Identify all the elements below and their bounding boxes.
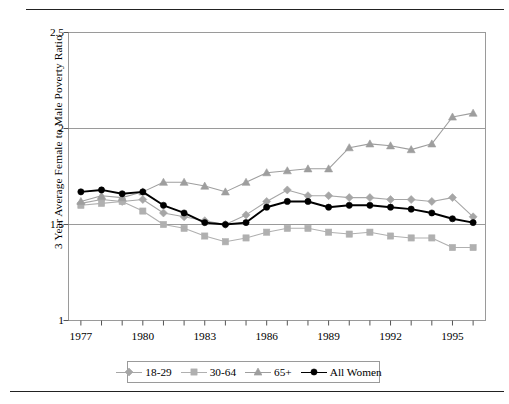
legend-item-18-29[interactable]: 18-29: [116, 366, 180, 378]
legend-label: 30-64: [210, 366, 236, 378]
legend-marker-triangle-icon: [245, 367, 271, 377]
legend-label: All Women: [330, 366, 382, 378]
legend-item-30-64[interactable]: 30-64: [181, 366, 245, 378]
data-point-circle: [311, 369, 317, 375]
x-tick-label: 1980: [120, 331, 166, 342]
legend-label: 65+: [274, 366, 292, 378]
legend-glyph: [310, 368, 318, 376]
legend-marker-square-icon: [181, 367, 207, 377]
legend-marker-diamond-icon: [116, 367, 142, 377]
x-tick-label: 1995: [429, 331, 475, 342]
legend-marker-circle-icon: [301, 367, 327, 377]
data-point-square: [191, 369, 197, 375]
legend-item-all-women[interactable]: All Women: [301, 366, 391, 378]
x-axis-ticks: 1977198019831986198919921995: [0, 0, 509, 404]
x-tick-label: 1983: [182, 331, 228, 342]
x-tick-label: 1977: [58, 331, 104, 342]
legend-item-65-[interactable]: 65+: [245, 366, 301, 378]
legend-glyph: [125, 368, 133, 376]
legend-glyph: [190, 368, 198, 376]
x-tick-label: 1992: [368, 331, 414, 342]
x-tick-label: 1989: [306, 331, 352, 342]
data-point-triangle: [254, 368, 262, 375]
figure: 3 Year Average Female to Male Poverty Ra…: [0, 0, 509, 404]
data-point-diamond: [125, 368, 133, 376]
legend-label: 18-29: [145, 366, 171, 378]
chart-legend: 18-2930-6465+All Women: [127, 361, 380, 383]
legend-glyph: [254, 368, 262, 376]
x-tick-label: 1986: [244, 331, 290, 342]
